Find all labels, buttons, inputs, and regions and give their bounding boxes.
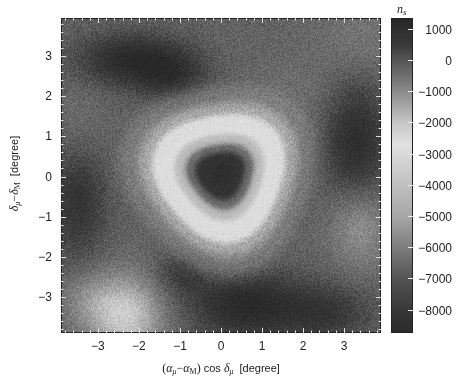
y-tick-label: −3 [38, 290, 52, 304]
y-label-unit: [degree] [8, 136, 20, 176]
x-tick-label: 1 [259, 339, 266, 353]
colorbar-label: ns [397, 2, 407, 17]
y-tick-label: 0 [45, 170, 52, 184]
colorbar-tick-label: 1000 [425, 23, 452, 37]
colorbar-tick-label: −8000 [418, 304, 452, 318]
axes-overlay: −3−2−10123 3210−1−2−3 10000−1000−2000−30… [0, 0, 463, 390]
x-axis-label: (αμ−αM) cos δμ[degree] [162, 361, 280, 376]
plot-border [62, 19, 381, 333]
colorbar-tick-label: −4000 [418, 179, 452, 193]
colorbar-tick-label: −3000 [418, 148, 452, 162]
colorbar-tick-label: −7000 [418, 272, 452, 286]
x-tick-label: 2 [300, 339, 307, 353]
x-label-sub-m: M [190, 367, 197, 376]
y-axis-label: δμ−δM[degree] [7, 136, 22, 211]
x-tick-label: 0 [218, 339, 225, 353]
y-tick-label: −2 [38, 250, 52, 264]
x-label-cos: cos [201, 362, 224, 374]
colorbar-tick-label: −1000 [418, 85, 452, 99]
y-label-sub-m: M [13, 182, 22, 189]
colorbar-tick-label: 0 [445, 54, 452, 68]
y-tick-label: 3 [45, 49, 52, 63]
x-tick-label: −1 [173, 339, 187, 353]
colorbar-tick-label: −2000 [418, 116, 452, 130]
colorbar-ticks: 10000−1000−2000−3000−4000−5000−6000−7000… [408, 23, 452, 318]
colorbar-tick-label: −5000 [418, 210, 452, 224]
y-tick-label: 1 [45, 129, 52, 143]
y-axis-ticks: 3210−1−2−3 [38, 25, 381, 330]
colorbar-tick-label: −6000 [418, 241, 452, 255]
y-tick-label: −1 [38, 210, 52, 224]
x-label-unit: [degree] [240, 362, 280, 374]
colorbar-label-sub: s [403, 7, 407, 17]
x-label-sub-mu2: μ [228, 367, 233, 376]
x-axis-ticks: −3−2−10123 [66, 18, 378, 353]
y-tick-label: 2 [45, 89, 52, 103]
x-tick-label: 3 [341, 339, 348, 353]
x-tick-label: −3 [91, 339, 105, 353]
x-tick-label: −2 [132, 339, 146, 353]
colorbar-border [392, 19, 413, 333]
